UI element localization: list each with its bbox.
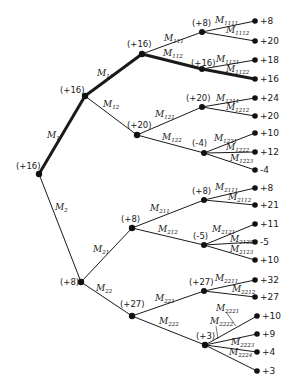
leaf-node bbox=[254, 313, 260, 319]
node-n121 bbox=[199, 104, 205, 110]
leaf-node bbox=[252, 149, 258, 155]
node-value-n211: (+8) bbox=[192, 186, 211, 196]
node-value-n1: (+16) bbox=[60, 85, 85, 95]
principal-variation-edges bbox=[39, 54, 255, 174]
leaf-node bbox=[252, 57, 258, 63]
leaf-value: +27 bbox=[260, 292, 279, 302]
move-label-m1223: M1223 bbox=[229, 153, 254, 164]
leaf-value: -4 bbox=[260, 165, 269, 175]
leaf-node bbox=[254, 368, 260, 374]
leaf-value: +10 bbox=[262, 311, 281, 321]
move-label-m121: M121 bbox=[154, 109, 175, 120]
move-label-m11: M11 bbox=[96, 68, 113, 79]
move-labels: M1 M2 M11 M12 M21 M22 M111 M112 M121 M12… bbox=[46, 15, 256, 358]
leaf-value: +18 bbox=[260, 55, 279, 65]
leaf-node bbox=[252, 185, 258, 191]
leaf-node bbox=[252, 257, 258, 263]
leaf-value: +4 bbox=[262, 347, 276, 357]
leaf-value: +24 bbox=[260, 93, 279, 103]
node-n212 bbox=[201, 242, 207, 248]
leaf-value: +10 bbox=[260, 255, 279, 265]
node-n221 bbox=[201, 288, 207, 294]
move-label-m21: M21 bbox=[92, 244, 109, 255]
leader-m2222 bbox=[216, 326, 218, 339]
edge-m2 bbox=[39, 174, 81, 282]
node-value-n222: (+3) bbox=[196, 331, 215, 341]
leaf-nodes bbox=[252, 18, 260, 374]
leaf-value: +3 bbox=[262, 366, 275, 376]
leaf-value: +8 bbox=[260, 16, 274, 26]
leaf-values: +8 +20 +18 +16 +24 +20 +10 +12 -4 +8 +21… bbox=[260, 16, 281, 376]
move-label-m22: M22 bbox=[95, 283, 113, 294]
leaf-node bbox=[252, 294, 258, 300]
move-label-m2211: M2211 bbox=[214, 273, 238, 284]
leaf-node bbox=[252, 18, 258, 24]
node-value-n22: (+27) bbox=[120, 299, 145, 309]
node-value-n12: (+20) bbox=[127, 120, 152, 130]
node-n12 bbox=[134, 132, 140, 138]
leaf-node bbox=[252, 76, 258, 82]
node-value-n121: (+20) bbox=[186, 93, 211, 103]
node-value-n2: (+8) bbox=[60, 277, 79, 287]
move-label-m112: M112 bbox=[162, 48, 183, 59]
move-label-m221: M221 bbox=[154, 293, 175, 304]
leaf-value: +20 bbox=[260, 36, 279, 46]
leaf-value: +8 bbox=[260, 183, 274, 193]
leaf-node bbox=[252, 113, 258, 119]
leaf-value: -5 bbox=[260, 237, 269, 247]
node-value-n122: (-4) bbox=[192, 138, 207, 148]
node-value-n11: (+16) bbox=[127, 39, 152, 49]
leaf-value: +11 bbox=[260, 219, 279, 229]
move-label-m211: M211 bbox=[149, 203, 170, 214]
move-label-m2112: M2112 bbox=[227, 192, 252, 203]
edge-m11 bbox=[85, 54, 142, 96]
node-value-root: (+16) bbox=[16, 161, 41, 171]
leaf-value: +10 bbox=[260, 128, 279, 138]
node-value-n112: (+16) bbox=[191, 58, 216, 68]
node-value-n111: (+8) bbox=[192, 18, 211, 28]
node-value-n221: (+27) bbox=[189, 277, 214, 287]
node-value-n212: (-5) bbox=[193, 231, 208, 241]
move-label-m1112: M1112 bbox=[225, 25, 250, 36]
node-n111 bbox=[199, 29, 205, 35]
edge-m21 bbox=[81, 228, 132, 282]
leaf-node bbox=[254, 331, 260, 337]
node-root bbox=[36, 171, 42, 177]
node-n222 bbox=[202, 342, 208, 348]
leaf-value: +32 bbox=[260, 275, 279, 285]
leaf-node bbox=[252, 277, 258, 283]
node-n211 bbox=[201, 197, 207, 203]
node-value-n21: (+8) bbox=[121, 214, 140, 224]
move-label-m2: M2 bbox=[54, 202, 68, 213]
game-tree-diagram: (+16) (+16) (+16) (+8) (+16) (+20) (+20)… bbox=[0, 0, 292, 392]
move-label-m1222: M1222 bbox=[225, 142, 250, 153]
leaf-node bbox=[252, 167, 258, 173]
move-label-m222: M222 bbox=[158, 316, 179, 327]
node-n22 bbox=[129, 313, 135, 319]
leaf-node bbox=[252, 38, 258, 44]
move-label-m1122: M1122 bbox=[225, 64, 250, 75]
leaf-value: +21 bbox=[260, 200, 279, 210]
edge-m211 bbox=[132, 200, 204, 228]
leaf-node bbox=[252, 202, 258, 208]
leaf-node bbox=[252, 130, 258, 136]
move-label-m2221: M2221 bbox=[215, 303, 239, 314]
node-n11 bbox=[139, 51, 145, 57]
move-label-m2123: M2123 bbox=[229, 244, 254, 255]
move-label-m111: M111 bbox=[163, 33, 184, 44]
node-n21 bbox=[129, 225, 135, 231]
move-label-m212: M212 bbox=[157, 224, 178, 235]
edge-m1 bbox=[39, 96, 85, 174]
move-label-m122: M122 bbox=[161, 132, 182, 143]
move-label-m12: M12 bbox=[102, 99, 120, 110]
leaf-node bbox=[252, 95, 258, 101]
leaf-value: +16 bbox=[260, 74, 279, 84]
move-label-m2224: M2224 bbox=[228, 347, 253, 358]
move-label-m1: M1 bbox=[46, 130, 60, 141]
leaf-value: +20 bbox=[260, 111, 279, 121]
node-n122 bbox=[201, 150, 207, 156]
leaf-node bbox=[254, 349, 260, 355]
leaf-value: +9 bbox=[262, 329, 276, 339]
leaf-node bbox=[252, 221, 258, 227]
move-label-m2212: M2212 bbox=[231, 284, 256, 295]
